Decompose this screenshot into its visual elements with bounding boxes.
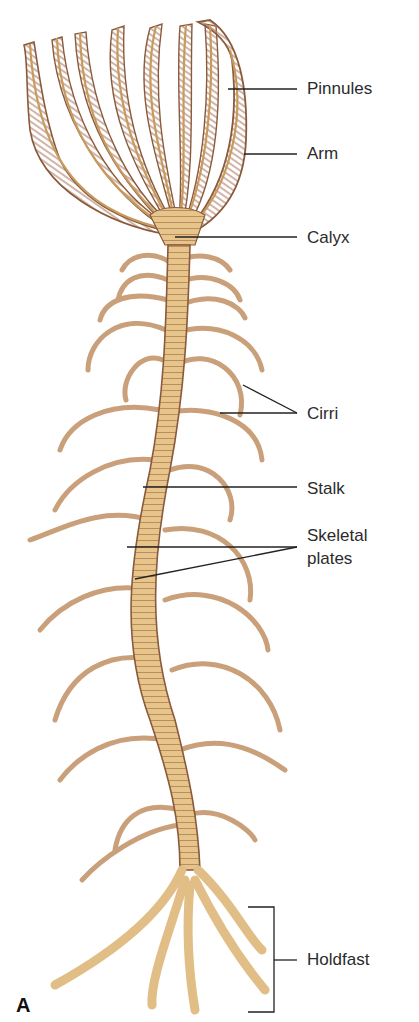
cirri [30,255,285,880]
crinoid-diagram: Pinnules Arm Calyx Cirri Stalk Skeletal … [0,0,419,1022]
label-cirri: Cirri [307,404,338,424]
label-pinnules: Pinnules [307,79,372,99]
crown [24,20,246,245]
label-holdfast: Holdfast [307,950,369,970]
label-plates: plates [307,549,352,569]
crinoid-illustration [0,0,419,1022]
panel-letter: A [16,994,30,1017]
stalk [131,245,200,870]
label-stalk: Stalk [307,479,345,499]
label-skeletal: Skeletal [307,526,367,546]
label-arm: Arm [307,144,338,164]
label-calyx: Calyx [307,228,350,248]
holdfast-roots [55,870,265,1010]
